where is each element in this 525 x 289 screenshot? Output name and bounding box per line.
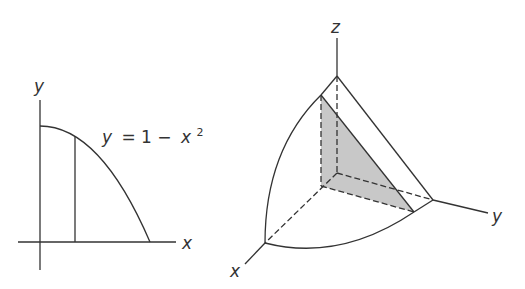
right-graph — [245, 38, 488, 264]
y-axis-label-2d: y — [33, 76, 45, 96]
x-axis-label-2d: x — [181, 233, 193, 253]
diagram-canvas: y x y = 1 − x 2 z y x — [0, 0, 525, 289]
left-graph — [18, 100, 176, 270]
top-edge-zx — [321, 76, 337, 95]
y-axis-label-3d: y — [491, 206, 503, 226]
curve-equation: y = 1 − x 2 — [101, 126, 203, 147]
y-axis-3d — [433, 200, 488, 213]
x-axis-label-3d: x — [229, 261, 241, 281]
equation-mid: = 1 − — [121, 127, 171, 147]
x-axis-3d — [245, 243, 265, 264]
side-curve-xz — [265, 95, 321, 243]
equation-var: x — [180, 127, 192, 147]
z-axis-label-3d: z — [330, 17, 341, 37]
edge-y-to-slice — [414, 200, 433, 212]
equation-lhs: y — [101, 127, 113, 147]
base-curve-xy — [265, 212, 414, 248]
equation-exp: 2 — [196, 126, 203, 139]
